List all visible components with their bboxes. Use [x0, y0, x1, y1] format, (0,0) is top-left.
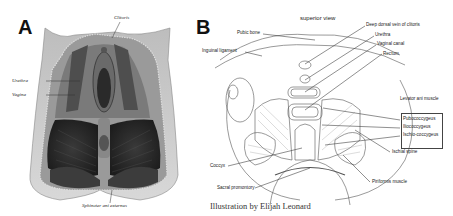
label-pubococcygeus: Pubococcygeus [403, 117, 435, 122]
label-deep-dorsal-vein: Deep dorsal vein of clitoris [366, 23, 420, 28]
panel-b-line-drawing: B superior view [200, 0, 453, 216]
label-vaginal-canal: Vaginal canal [377, 42, 404, 47]
label-vagina: Vagina [12, 92, 26, 97]
label-urethra-a: Urethra [12, 78, 28, 83]
label-pubic-bone: Pubic bone [237, 31, 260, 36]
label-ischio-coccygeus: Ischio-coccygeus [403, 133, 438, 138]
label-sacral-promontory: Sacral promontory [217, 186, 255, 191]
label-urethra-b: Urethra [375, 33, 390, 38]
illustration-credit-caption: Illustration by Elijah Leonard [210, 201, 311, 211]
label-iliococcygeus: Iliococcygeus [403, 125, 431, 130]
label-piriformis-muscle: Piriformis muscle [372, 180, 407, 185]
panel-a-engraving: A [0, 0, 200, 216]
label-inguinal-ligament: Inguinal ligament [202, 49, 237, 54]
label-sphincter-ani-externus: Sphincter ani externus [82, 203, 127, 208]
label-clitoris: Clitoris [114, 15, 129, 20]
label-ischial-spine: Ischial spine [392, 150, 417, 155]
label-rectum: Rectum [383, 52, 399, 57]
label-coccyx: Coccyx [210, 164, 225, 169]
label-levator-ani-muscle: Levator ani muscle [400, 97, 439, 102]
perineum-engraving-illustration [0, 0, 200, 216]
